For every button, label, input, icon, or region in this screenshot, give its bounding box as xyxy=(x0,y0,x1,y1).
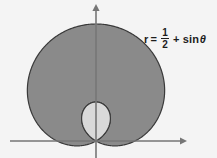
fraction-denominator: 2 xyxy=(161,39,169,50)
equation-theta-symbol: θ xyxy=(200,34,206,45)
equation-plus-sign: + xyxy=(173,34,180,45)
y-axis-arrow-up-icon xyxy=(92,4,99,11)
equation-fraction-one-half: 1 2 xyxy=(161,28,169,50)
x-axis-arrow-right-icon xyxy=(180,137,187,144)
polar-plot-figure: r = 1 2 + sin θ xyxy=(0,0,217,158)
polar-curve-svg xyxy=(0,0,217,158)
equation-variable: r xyxy=(144,34,148,45)
equation-annotation: r = 1 2 + sin θ xyxy=(144,28,206,50)
equation-sine-function: sin xyxy=(183,34,200,45)
fraction-numerator: 1 xyxy=(161,28,169,39)
equation-equals-sign: = xyxy=(150,34,157,45)
